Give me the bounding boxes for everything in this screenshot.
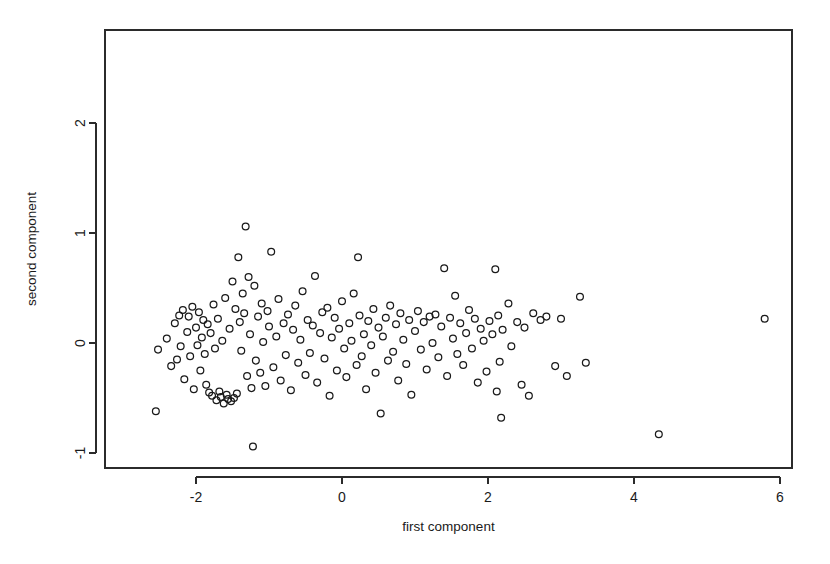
- y-tick-label: 0: [72, 339, 88, 347]
- x-tick-label: -2: [190, 489, 203, 505]
- x-tick-label: 6: [776, 489, 784, 505]
- y-tick-label: -1: [72, 447, 88, 460]
- y-tick-label: 2: [72, 119, 88, 127]
- scatter-plot-figure: -20246 -1012 first component second comp…: [0, 0, 830, 564]
- plot-canvas: -20246 -1012 first component second comp…: [0, 0, 830, 564]
- x-tick-label: 0: [338, 489, 346, 505]
- y-tick-label: 1: [72, 229, 88, 237]
- x-tick-label: 4: [630, 489, 638, 505]
- x-tick-label: 2: [484, 489, 492, 505]
- x-axis-title: first component: [402, 519, 495, 534]
- y-axis-title: second component: [24, 192, 39, 306]
- figure-background: [0, 0, 830, 564]
